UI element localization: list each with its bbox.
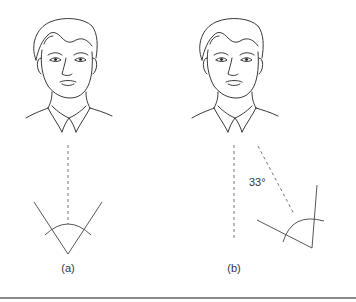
bottom-rule [0, 297, 356, 299]
head-illustration-b [192, 19, 278, 132]
panel-label-a: (a) [61, 262, 74, 274]
angle-arm-up-b [312, 185, 317, 248]
head-illustration-a [26, 19, 112, 132]
angle-label-b: 33° [249, 176, 266, 188]
figure-canvas [0, 0, 356, 302]
angle-arm-right-a [68, 202, 102, 254]
angle-arm-left-a [34, 202, 68, 254]
panel-label-b: (b) [227, 262, 240, 274]
angle-arc-a [45, 224, 91, 235]
panel-a-geometry [34, 145, 102, 254]
panel-b-geometry [234, 145, 324, 248]
angle-arc-b [283, 219, 324, 242]
angle-arm-left-b [257, 220, 312, 248]
